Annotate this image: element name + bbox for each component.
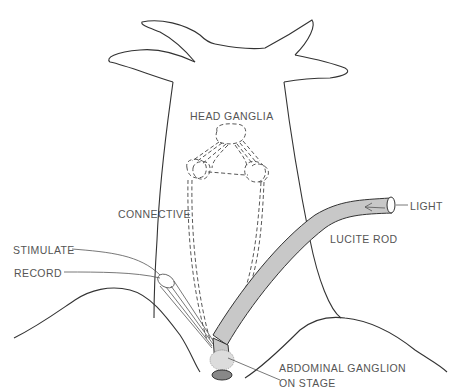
head-ganglia-label: HEAD GANGLIA	[190, 110, 274, 122]
lucite-rod	[213, 197, 408, 365]
preparation-diagram	[0, 0, 453, 392]
electrode	[64, 249, 214, 348]
abdominal-ganglion-stage	[210, 350, 280, 380]
stimulate-label: STIMULATE	[13, 244, 75, 256]
lucite-rod-label: LUCITE ROD	[330, 233, 398, 245]
record-label: RECORD	[14, 267, 62, 279]
connective-label: CONNECTIVE	[118, 208, 191, 220]
head-ganglia	[187, 124, 269, 182]
light-label: LIGHT	[410, 200, 443, 212]
abdominal-ganglion-label: ABDOMINAL GANGLION	[279, 362, 406, 374]
on-stage-label: ON STAGE	[279, 377, 336, 389]
body-outline	[109, 20, 348, 318]
